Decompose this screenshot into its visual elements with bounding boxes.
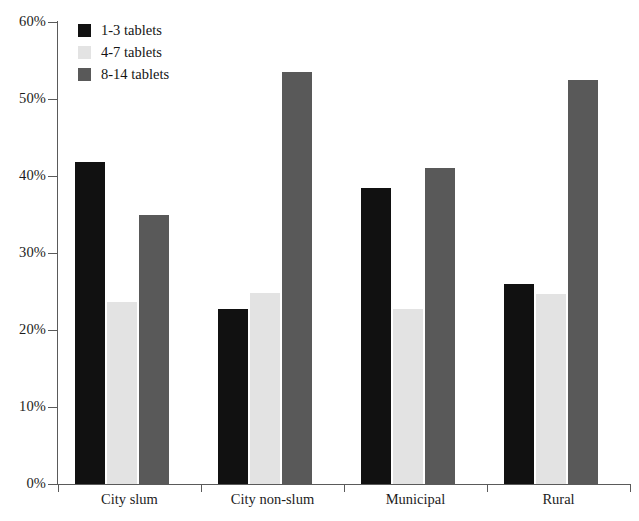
y-axis-tick-label: 40% (2, 168, 46, 183)
bar (425, 168, 455, 484)
bar (218, 309, 248, 484)
y-axis-tick (48, 330, 57, 331)
legend-item-label: 4-7 tablets (101, 45, 162, 60)
legend-item: 8-14 tablets (78, 64, 169, 85)
bar (536, 294, 566, 484)
y-axis-tick-label-wrap: 0% (0, 484, 46, 485)
y-axis-tick-label-wrap: 20% (0, 330, 46, 331)
legend-swatch-icon (78, 46, 91, 59)
plot-area (58, 22, 630, 484)
x-axis-tick (201, 484, 202, 492)
bar (75, 162, 105, 484)
bar (139, 215, 169, 485)
legend-swatch-icon (78, 68, 91, 81)
chart-legend: 1-3 tablets4-7 tablets8-14 tablets (78, 20, 169, 86)
bar (250, 293, 280, 484)
x-axis-category-label: Rural (487, 492, 630, 508)
x-axis-tick (58, 484, 59, 492)
x-axis-tick (344, 484, 345, 492)
x-axis-tick (630, 484, 631, 492)
y-axis-tick-label: 60% (2, 14, 46, 29)
bar (393, 309, 423, 484)
y-axis-tick-label: 20% (2, 322, 46, 337)
y-axis-tick-label-wrap: 30% (0, 253, 46, 254)
bar (361, 188, 391, 484)
y-axis-tick (48, 407, 57, 408)
y-axis-tick-label: 30% (2, 245, 46, 260)
y-axis-tick-label: 10% (2, 399, 46, 414)
y-axis-tick (48, 176, 57, 177)
y-axis-tick (48, 484, 57, 485)
bar (107, 302, 137, 484)
bar (504, 284, 534, 484)
bar (282, 72, 312, 484)
bar-chart: 0%10%20%30%40%50%60% City slumCity non-s… (0, 0, 639, 521)
y-axis-tick-label: 0% (2, 476, 46, 491)
bar (568, 80, 598, 484)
legend-item-label: 1-3 tablets (101, 23, 162, 38)
y-axis-tick-label: 50% (2, 91, 46, 106)
legend-swatch-icon (78, 24, 91, 37)
y-axis-tick-label-wrap: 60% (0, 22, 46, 23)
y-axis-tick-label-wrap: 40% (0, 176, 46, 177)
y-axis-tick (48, 253, 57, 254)
x-axis-category-label: City slum (58, 492, 201, 508)
x-axis-tick (487, 484, 488, 492)
legend-item: 1-3 tablets (78, 20, 169, 41)
x-axis-category-label: Municipal (344, 492, 487, 508)
x-axis-category-label: City non-slum (201, 492, 344, 508)
y-axis-tick (48, 99, 57, 100)
y-axis-tick-label-wrap: 10% (0, 407, 46, 408)
legend-item: 4-7 tablets (78, 42, 169, 63)
y-axis-tick (48, 22, 57, 23)
legend-item-label: 8-14 tablets (101, 67, 169, 82)
y-axis-tick-label-wrap: 50% (0, 99, 46, 100)
